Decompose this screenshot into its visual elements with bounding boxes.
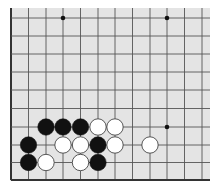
black-stone[interactable]: [20, 137, 36, 153]
black-stone[interactable]: [20, 154, 36, 170]
star-point-icon: [165, 16, 170, 21]
black-stone[interactable]: [90, 137, 106, 153]
black-stone[interactable]: [90, 154, 106, 170]
star-point-icon: [61, 16, 66, 21]
go-board: [0, 0, 222, 187]
white-stone[interactable]: [55, 137, 71, 153]
white-stone[interactable]: [142, 137, 158, 153]
black-stone[interactable]: [72, 119, 88, 135]
white-stone[interactable]: [38, 154, 54, 170]
star-point-icon: [165, 125, 170, 130]
white-stone[interactable]: [107, 137, 123, 153]
white-stone[interactable]: [90, 119, 106, 135]
white-stone[interactable]: [72, 154, 88, 170]
black-stone[interactable]: [55, 119, 71, 135]
board-background: [10, 8, 210, 181]
white-stone[interactable]: [72, 137, 88, 153]
black-stone[interactable]: [38, 119, 54, 135]
white-stone[interactable]: [107, 119, 123, 135]
